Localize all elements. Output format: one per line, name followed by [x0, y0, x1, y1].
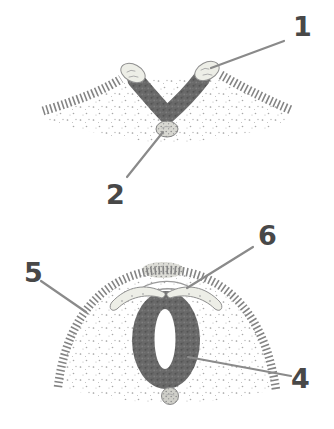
neurulation-diagram: 1 2 [0, 0, 334, 429]
neural-canal-lumen [155, 309, 176, 369]
label-5: 5 [24, 257, 43, 288]
panel-neural-tube-stage: 5 6 4 [24, 220, 310, 405]
leader-line-1 [211, 41, 284, 68]
figure-canvas: 1 2 [0, 0, 334, 429]
leader-line-6 [187, 247, 253, 288]
notochord-top [156, 121, 178, 137]
panel-neural-fold-stage: 1 2 [43, 11, 312, 210]
label-6: 6 [258, 220, 277, 251]
label-2: 2 [106, 179, 125, 210]
notochord-bottom [162, 388, 179, 405]
label-1: 1 [293, 11, 312, 42]
label-4: 4 [291, 363, 310, 394]
leader-line-5 [41, 281, 86, 312]
neural-tube [132, 291, 200, 389]
